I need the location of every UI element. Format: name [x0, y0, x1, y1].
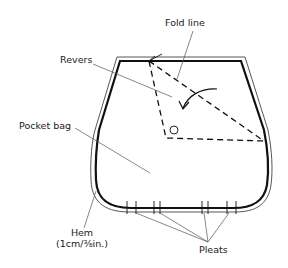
- button-circle-icon: [170, 126, 178, 134]
- pocket-diagram: [0, 0, 288, 268]
- pleats-leader-1: [136, 213, 208, 242]
- hem-label-measure: (1cm/⅜in.): [50, 238, 114, 249]
- pleats-label: Pleats: [199, 244, 228, 255]
- pocket-bag-leader: [75, 128, 150, 173]
- hem-outline: [91, 57, 272, 212]
- fold-direction-arrow-icon: [183, 89, 217, 108]
- pleats-leader-3: [204, 213, 208, 242]
- hem-leader: [84, 191, 96, 228]
- fold-line-leader: [177, 31, 193, 79]
- pocket-outline: [96, 61, 268, 208]
- hem-label-title: Hem: [50, 227, 114, 238]
- fold-vertex-arrow-icon: [149, 54, 162, 64]
- pocket-bag-label: Pocket bag: [19, 120, 71, 131]
- pleats-leader-4: [208, 213, 229, 242]
- fold-line-label: Fold line: [165, 17, 205, 28]
- pleats-leader-2: [160, 213, 208, 242]
- fold-line-dashed: [149, 61, 264, 141]
- revers-label: Revers: [60, 54, 92, 65]
- hem-label: Hem (1cm/⅜in.): [50, 227, 114, 249]
